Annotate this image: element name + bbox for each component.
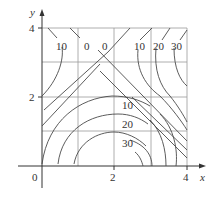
contour-label: 10: [122, 99, 134, 111]
contour-label: 30: [122, 137, 134, 149]
contour-label: 20: [153, 40, 165, 52]
contour-plot: y 4 2 0 2 4 x 10 0 0 10 20 30 10 20 30: [0, 0, 218, 201]
contour-label: 0: [102, 40, 108, 52]
axes: [18, 9, 206, 188]
x-axis-arrow-icon: [199, 164, 206, 169]
x-tick-4: 4: [183, 171, 189, 183]
contour-label: 30: [171, 40, 183, 52]
y-tick-2: 2: [29, 91, 35, 103]
contour-label: 20: [122, 118, 134, 130]
x-tick-2: 2: [110, 171, 116, 183]
y-axis-arrow-icon: [40, 9, 45, 16]
contour-label: 10: [56, 40, 68, 52]
y-tick-4: 4: [29, 22, 35, 34]
contour-label: 0: [84, 40, 90, 52]
origin-label: 0: [32, 171, 38, 183]
y-axis-label: y: [29, 6, 35, 18]
contour-label: 10: [134, 40, 146, 52]
x-axis-label: x: [199, 171, 205, 183]
